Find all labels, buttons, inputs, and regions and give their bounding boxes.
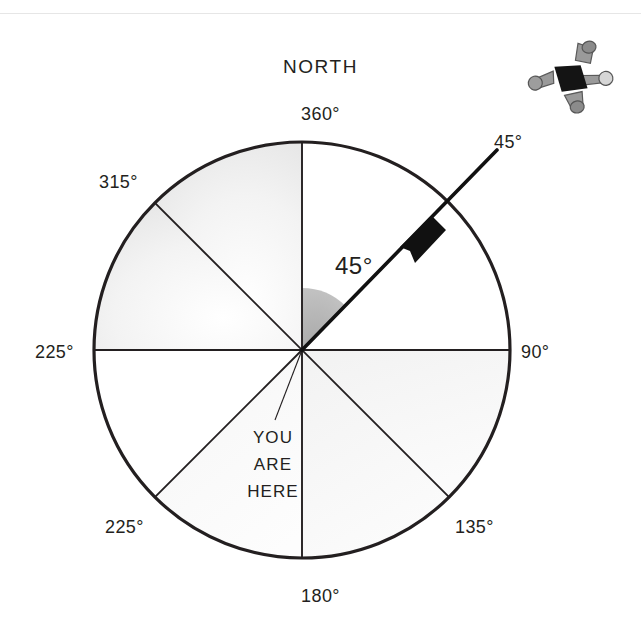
- you-are-here-line-2: ARE: [233, 451, 313, 478]
- you-are-here-label: YOU ARE HERE: [233, 424, 313, 505]
- bearing-label-360: 360°: [0, 104, 641, 125]
- bearing-label-225-w: 225°: [35, 342, 74, 363]
- heading-angle-label: 45°: [335, 252, 373, 280]
- you-are-here-line-3: HERE: [233, 478, 313, 505]
- bearing-label-45: 45°: [494, 132, 522, 153]
- bearing-label-315: 315°: [99, 172, 138, 193]
- bearing-label-135: 135°: [455, 517, 494, 538]
- heading-arrow: [302, 150, 497, 350]
- diagram-page: NORTH 360° 45° 90° 135° 180° 225° 225° 3…: [0, 0, 641, 640]
- you-are-here-line-1: YOU: [233, 424, 313, 451]
- bearing-label-180: 180°: [0, 586, 641, 607]
- bearing-label-225-sw: 225°: [105, 517, 144, 538]
- page-title-north: NORTH: [0, 56, 641, 78]
- bearing-label-90: 90°: [521, 342, 549, 363]
